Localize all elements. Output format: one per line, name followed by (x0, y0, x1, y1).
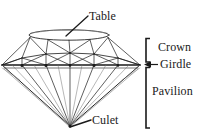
table-leader-line (66, 16, 88, 36)
crown-facet-line (2, 58, 22, 65)
crown-facet-line (90, 40, 94, 54)
label-pavilion: Pavilion (152, 85, 193, 97)
crown-facet-line (46, 40, 48, 54)
diamond-anatomy-figure: Table Crown Girdle Pavilion Culet (0, 0, 204, 138)
crown-bracket (146, 39, 150, 63)
crown-facet-line (94, 38, 108, 55)
pavilion-facet-line (22, 65, 70, 126)
label-crown: Crown (158, 41, 191, 53)
crown-facet-line (108, 38, 140, 66)
girdle-scallop (2, 68, 20, 80)
pavilion-bracket (146, 68, 150, 129)
crown-facet-line (108, 38, 118, 59)
crown-facet-line (30, 38, 46, 55)
crown-facet-line (48, 40, 70, 53)
crown-facet-line (69, 40, 70, 53)
crown-facet-line (94, 58, 118, 65)
pavilion-group (2, 65, 140, 127)
pavilion-facet-line (46, 65, 70, 126)
crown-facet-line (2, 38, 30, 66)
pavilion-edge-left-inner (4, 69, 70, 127)
crown-facet-line (70, 40, 90, 53)
label-girdle: Girdle (160, 58, 191, 70)
label-culet: Culet (92, 114, 119, 126)
girdle-scallop (128, 65, 140, 76)
crown-facet-line (118, 58, 140, 65)
pavilion-facet-line (34, 65, 70, 126)
girdle-scallop (2, 65, 14, 76)
girdle-outline-upper (2, 53, 140, 65)
crown-group (2, 30, 140, 68)
crown-facet-line (22, 38, 30, 59)
pavilion-facet-line (12, 65, 70, 126)
section-brackets (146, 39, 150, 129)
label-table: Table (89, 10, 116, 22)
crown-facet-line (22, 58, 46, 65)
table-facet (29, 30, 109, 40)
